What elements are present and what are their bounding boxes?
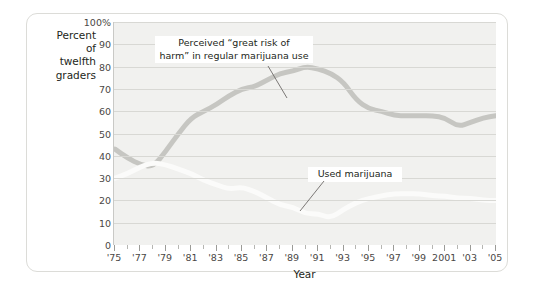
leader-lines [0, 0, 533, 294]
annotation-leader-line [300, 181, 324, 211]
annotation-leader-line [268, 66, 287, 98]
chart-figure: Percent of twelfth graders 0102030405060… [0, 0, 533, 294]
